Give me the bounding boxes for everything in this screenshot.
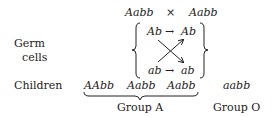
group-o-label: Group O	[213, 102, 260, 114]
group-a-label: Group A	[117, 102, 163, 114]
child-genotype-2: Aabb	[127, 80, 156, 92]
underbrace-icon	[84, 92, 198, 100]
left-brace-icon	[132, 23, 140, 78]
child-genotype-4: aabb	[223, 80, 250, 92]
children-label: Children	[14, 80, 62, 92]
child-genotype-3: Aabb	[167, 80, 196, 92]
child-genotype-1: AAbb	[84, 80, 114, 92]
right-brace-icon	[200, 23, 208, 78]
diagram-lines	[0, 0, 273, 117]
